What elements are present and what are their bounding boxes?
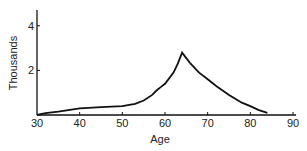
line-chart: 30405060708090 24 Age Thousands [0, 0, 307, 151]
y-axis-title: Thousands [7, 35, 19, 90]
x-tick-label: 30 [31, 117, 43, 129]
data-line [37, 53, 267, 115]
x-tick-label: 60 [159, 117, 171, 129]
y-tick-label: 2 [28, 64, 34, 76]
x-tick-label: 40 [74, 117, 86, 129]
y-ticks: 24 [28, 20, 40, 77]
y-tick-label: 4 [28, 20, 34, 32]
x-tick-label: 50 [116, 117, 128, 129]
x-tick-label: 80 [244, 117, 256, 129]
axes [37, 10, 296, 115]
x-tick-label: 90 [287, 117, 299, 129]
x-tick-label: 70 [202, 117, 214, 129]
x-axis-title: Age [150, 133, 170, 145]
